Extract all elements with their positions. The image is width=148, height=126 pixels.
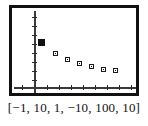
y-tick-7 [32, 71, 37, 72]
y-tick-1 [32, 17, 37, 18]
point-4 [77, 61, 82, 66]
window-settings-caption: [−1, 10, 1, −10, 100, 10] [0, 100, 148, 116]
point-7 [113, 68, 118, 73]
point-5 [89, 64, 94, 69]
point-6 [101, 67, 106, 72]
point-2 [53, 51, 58, 56]
calculator-screenshot-figure: [−1, 10, 1, −10, 100, 10] [0, 0, 148, 126]
x-tick-9 [131, 85, 132, 90]
x-tick-3 [59, 85, 60, 90]
plot-area [12, 8, 136, 93]
y-tick-3 [32, 35, 37, 36]
x-tick-6 [95, 85, 96, 90]
x-tick-5 [83, 85, 84, 90]
y-tick-4 [32, 44, 37, 45]
point-1 [38, 39, 45, 46]
y-tick-8 [32, 80, 37, 81]
y-tick-5 [32, 53, 37, 54]
x-tick-4 [71, 85, 72, 90]
x-tick-2 [47, 85, 48, 90]
x-tick-7 [107, 85, 108, 90]
y-tick-2 [32, 26, 37, 27]
calculator-screen-frame [9, 5, 139, 96]
x-tick-1 [22, 85, 23, 90]
y-tick-6 [32, 62, 37, 63]
point-3 [65, 57, 70, 62]
x-tick-8 [119, 85, 120, 90]
